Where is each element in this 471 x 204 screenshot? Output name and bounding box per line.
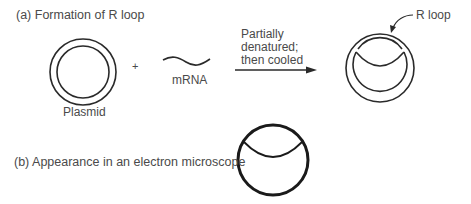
diagram-canvas bbox=[0, 0, 471, 204]
r-loop-label: R loop bbox=[416, 9, 451, 22]
plasmid-label: Plasmid bbox=[63, 106, 106, 119]
mrna-label: mRNA bbox=[172, 74, 207, 87]
step-text-line-3: then cooled bbox=[241, 54, 303, 67]
panel-b-title: (b) Appearance in an electron microscope bbox=[14, 156, 245, 169]
plus-sign: + bbox=[132, 60, 138, 73]
panel-a-title: (a) Formation of R loop bbox=[16, 9, 145, 22]
em-appearance-icon bbox=[238, 125, 308, 195]
mrna-strand-icon bbox=[163, 57, 210, 65]
r-loop-structure-icon bbox=[346, 34, 414, 102]
process-arrow-icon bbox=[235, 67, 317, 74]
plasmid-icon bbox=[50, 39, 116, 105]
r-loop-pointer-icon bbox=[390, 15, 413, 33]
